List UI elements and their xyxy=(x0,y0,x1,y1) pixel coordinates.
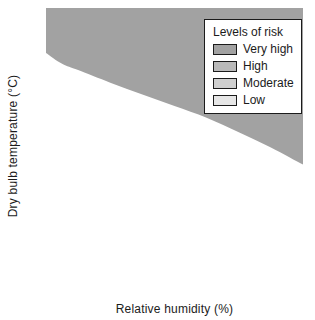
heat-risk-chart: Levels of risk Very highHighModerateLow … xyxy=(0,0,315,320)
legend-item-moderate: Moderate xyxy=(213,76,297,90)
legend-swatch xyxy=(213,95,237,106)
legend-title: Levels of risk xyxy=(213,25,297,39)
legend-item-high: High xyxy=(213,59,297,73)
legend-swatch xyxy=(213,78,237,89)
legend-swatch xyxy=(213,61,237,72)
legend-item-label: Moderate xyxy=(243,76,294,90)
legend-item-very-high: Very high xyxy=(213,42,297,56)
legend-item-label: Low xyxy=(243,93,265,107)
legend-item-low: Low xyxy=(213,93,297,107)
x-axis-title: Relative humidity (%) xyxy=(46,302,303,316)
legend-swatch xyxy=(213,44,237,55)
y-axis-title: Dry bulb temperature (°C) xyxy=(6,71,20,221)
chart-legend: Levels of risk Very highHighModerateLow xyxy=(204,19,302,114)
legend-rows: Very highHighModerateLow xyxy=(213,42,297,107)
legend-item-label: Very high xyxy=(243,42,293,56)
legend-item-label: High xyxy=(243,59,268,73)
